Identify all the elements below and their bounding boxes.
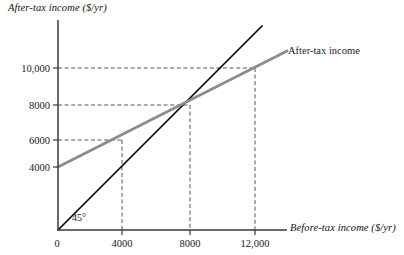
horizontal-guides <box>58 68 255 140</box>
vertical-guides <box>122 68 255 230</box>
chart-figure: After-tax income ($/yr) Before-tax incom… <box>0 0 404 255</box>
y-tick-label-10000: 10,000 <box>6 63 50 74</box>
y-axis-title: After-tax income ($/yr) <box>8 2 107 13</box>
angle-annotation-45-degrees: 45° <box>72 212 86 223</box>
y-tick-label-6000: 6000 <box>6 135 50 146</box>
x-tick-label-8000: 8000 <box>180 238 201 249</box>
x-tick-label-12000: 12,000 <box>241 238 270 249</box>
series-line-45-degree <box>58 26 262 230</box>
x-axis-title: Before-tax income ($/yr) <box>290 222 396 233</box>
y-tick-label-8000: 8000 <box>6 100 50 111</box>
x-tick-label-0: 0 <box>54 238 59 249</box>
x-tick-label-4000: 4000 <box>112 238 133 249</box>
series-callout-after-tax-income: After-tax income <box>288 45 360 56</box>
y-tick-label-4000: 4000 <box>6 162 50 173</box>
chart-canvas <box>0 0 404 255</box>
